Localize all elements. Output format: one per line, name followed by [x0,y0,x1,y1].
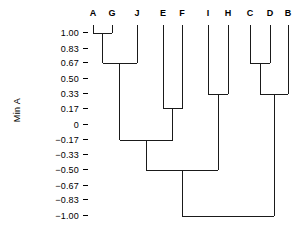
dendrogram-tree [0,0,299,235]
dendrogram-branches [93,25,288,216]
dendrogram-chart: Min A 1.000.830.670.500.330.170−0.17−0.3… [0,0,299,235]
